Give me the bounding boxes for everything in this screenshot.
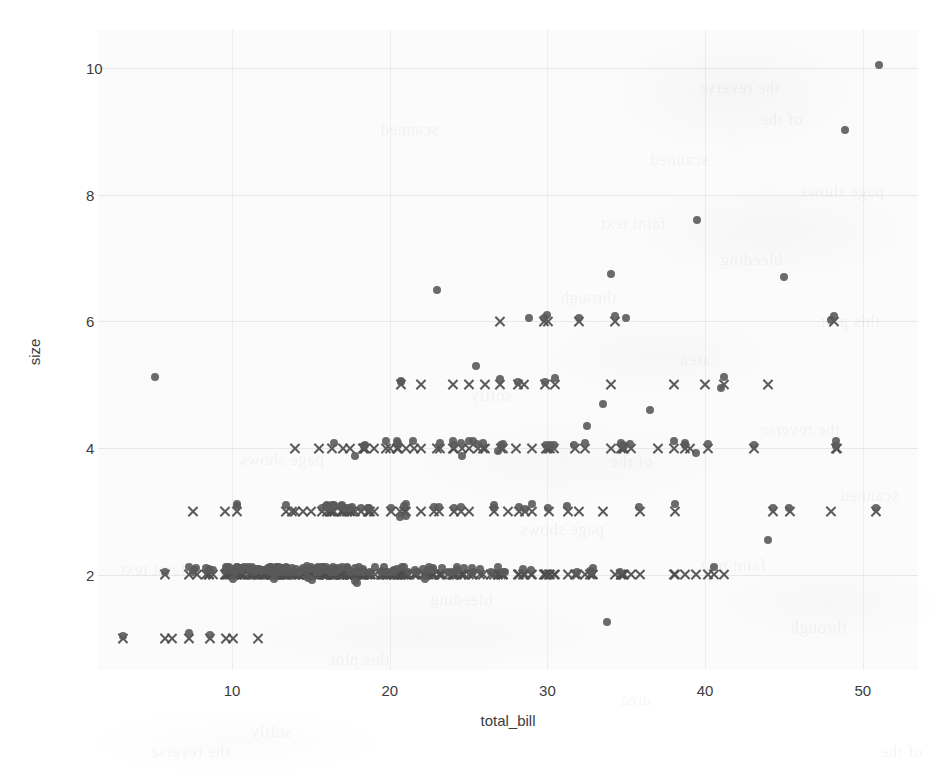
ghost-text-fragment: the reverse — [150, 742, 230, 763]
marker-cross — [478, 378, 491, 391]
marker-cross — [509, 442, 522, 455]
marker-cross — [415, 442, 428, 455]
plot-area — [98, 30, 918, 670]
marker-cross — [762, 378, 775, 391]
marker-point — [400, 502, 408, 510]
marker-point — [330, 501, 338, 509]
marker-point — [282, 501, 290, 509]
marker-cross — [604, 378, 617, 391]
marker-point — [764, 536, 772, 544]
marker-point — [457, 503, 465, 511]
ghost-text-fragment: of the — [880, 742, 922, 762]
x-tick-label: 40 — [697, 682, 714, 699]
marker-point — [497, 441, 505, 449]
marker-point — [394, 439, 402, 447]
marker-cross — [633, 568, 646, 581]
marker-point — [433, 286, 441, 294]
marker-point — [599, 400, 607, 408]
marker-cross — [289, 442, 302, 455]
marker-point — [343, 504, 351, 512]
marker-point — [206, 631, 214, 639]
marker-cross — [699, 378, 712, 391]
marker-cross — [367, 442, 380, 455]
marker-point — [603, 618, 611, 626]
marker-point — [646, 406, 654, 414]
marker-point — [351, 577, 359, 585]
scatter-plot-screenshot: the reverseof thescannedpage showsfaint … — [0, 0, 941, 773]
marker-point — [299, 566, 307, 574]
marker-point — [635, 503, 643, 511]
marker-cross — [651, 442, 664, 455]
marker-point — [272, 568, 280, 576]
marker-point — [583, 422, 591, 430]
marker-point — [460, 564, 468, 572]
marker-cross — [415, 505, 428, 518]
x-tick-label: 20 — [381, 682, 398, 699]
marker-point — [468, 564, 476, 572]
marker-point — [390, 568, 398, 576]
marker-point — [617, 439, 625, 447]
gridline-horizontal — [98, 321, 918, 322]
marker-point — [607, 270, 615, 278]
marker-cross — [667, 378, 680, 391]
marker-point — [396, 513, 404, 521]
marker-point — [190, 566, 198, 574]
marker-point — [780, 273, 788, 281]
marker-point — [351, 452, 359, 460]
marker-point — [476, 565, 484, 573]
marker-point — [872, 504, 880, 512]
marker-cross — [218, 505, 231, 518]
marker-point — [496, 375, 504, 383]
marker-cross — [415, 378, 428, 391]
marker-point — [551, 374, 559, 382]
x-axis-label: total_bill — [480, 712, 535, 729]
marker-point — [527, 566, 535, 574]
marker-point — [458, 452, 466, 460]
marker-cross — [825, 505, 838, 518]
marker-point — [479, 439, 487, 447]
marker-point — [202, 564, 210, 572]
marker-point — [185, 629, 193, 637]
marker-cross — [596, 505, 609, 518]
marker-cross — [227, 632, 240, 645]
marker-point — [409, 437, 417, 445]
gridline-horizontal — [98, 68, 918, 69]
marker-point — [519, 565, 527, 573]
marker-point — [382, 437, 390, 445]
marker-point — [692, 449, 700, 457]
marker-point — [397, 378, 405, 386]
marker-point — [119, 632, 127, 640]
marker-cross — [166, 632, 179, 645]
marker-point — [229, 575, 237, 583]
gridline-vertical — [863, 30, 864, 670]
marker-point — [465, 437, 473, 445]
x-tick-label: 10 — [224, 682, 241, 699]
marker-point — [360, 442, 368, 450]
marker-point — [514, 378, 522, 386]
ghost-text-fragment: softly — [250, 722, 292, 742]
ghost-text-fragment: area — [620, 690, 650, 710]
gridline-horizontal — [98, 195, 918, 196]
marker-cross — [462, 378, 475, 391]
marker-point — [436, 439, 444, 447]
marker-point — [383, 568, 391, 576]
marker-cross — [717, 568, 730, 581]
marker-point — [499, 568, 507, 576]
marker-cross — [525, 442, 538, 455]
marker-point — [357, 504, 365, 512]
marker-point — [541, 378, 549, 386]
marker-cross — [572, 505, 585, 518]
marker-cross — [312, 442, 325, 455]
marker-point — [161, 568, 169, 576]
marker-point — [671, 500, 679, 508]
marker-cross — [494, 315, 507, 328]
marker-point — [258, 566, 266, 574]
marker-point — [525, 314, 533, 322]
x-tick-label: 50 — [854, 682, 871, 699]
marker-point — [151, 373, 159, 381]
marker-cross — [251, 632, 264, 645]
marker-point — [670, 437, 678, 445]
x-tick-label: 30 — [539, 682, 556, 699]
marker-point — [435, 503, 443, 511]
marker-point — [421, 575, 429, 583]
